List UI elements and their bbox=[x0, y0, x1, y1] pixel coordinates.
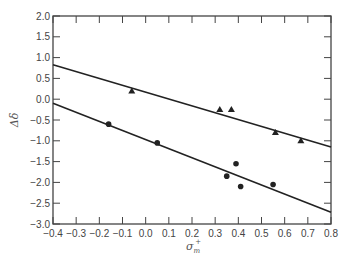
data-markers bbox=[106, 87, 305, 189]
circle-marker bbox=[106, 121, 112, 127]
y-tick-labels: 2.01.51.00.50.0−0.5−1.0−1.5−2.0−2.5−3.0 bbox=[30, 11, 50, 230]
x-axis-label: σm+ bbox=[186, 238, 201, 255]
x-tick-label: 0.7 bbox=[301, 228, 315, 239]
y-tick-label: −2.0 bbox=[30, 177, 50, 188]
y-tick-label: −1.0 bbox=[30, 135, 50, 146]
y-tick-label: 0.5 bbox=[36, 73, 50, 84]
x-tick-label: 0.0 bbox=[139, 228, 153, 239]
triangle-marker bbox=[216, 106, 223, 112]
fit-lines bbox=[53, 65, 331, 213]
x-tick-labels: −0.4−0.3−0.2−0.10.00.10.20.30.40.50.60.7… bbox=[43, 228, 338, 239]
triangles-fit-line bbox=[53, 65, 331, 147]
y-axis-label: Δδ bbox=[8, 112, 21, 128]
circle-marker bbox=[233, 161, 239, 167]
y-tick-label: −1.5 bbox=[30, 156, 50, 167]
circle-marker bbox=[270, 182, 276, 188]
y-tick-label: −2.5 bbox=[30, 198, 50, 209]
y-tick-label: 0.0 bbox=[36, 94, 50, 105]
x-tick-label: 0.8 bbox=[324, 228, 338, 239]
x-tick-label: 0.5 bbox=[255, 228, 269, 239]
circle-marker bbox=[154, 140, 160, 146]
x-tick-label: −0.3 bbox=[66, 228, 86, 239]
x-tick-label: −0.4 bbox=[43, 228, 63, 239]
circle-marker bbox=[238, 184, 244, 190]
chart: −0.4−0.3−0.2−0.10.00.10.20.30.40.50.60.7… bbox=[0, 0, 345, 263]
triangle-marker bbox=[228, 106, 235, 112]
y-tick-label: −0.5 bbox=[30, 115, 50, 126]
y-tick-label: 1.5 bbox=[36, 31, 50, 42]
circles-fit-line bbox=[53, 103, 331, 212]
x-tick-label: 0.1 bbox=[162, 228, 176, 239]
x-tick-label: 0.4 bbox=[231, 228, 245, 239]
circle-marker bbox=[224, 173, 230, 179]
y-tick-label: −3.0 bbox=[30, 219, 50, 230]
x-tick-label: 0.3 bbox=[208, 228, 222, 239]
x-tick-label: 0.6 bbox=[278, 228, 292, 239]
y-tick-label: 2.0 bbox=[36, 11, 50, 22]
y-tick-label: 1.0 bbox=[36, 52, 50, 63]
x-axis-label-sup: + bbox=[195, 238, 201, 246]
x-axis-label-sub: m bbox=[194, 247, 201, 255]
x-tick-label: −0.2 bbox=[89, 228, 109, 239]
x-tick-label: −0.1 bbox=[113, 228, 133, 239]
